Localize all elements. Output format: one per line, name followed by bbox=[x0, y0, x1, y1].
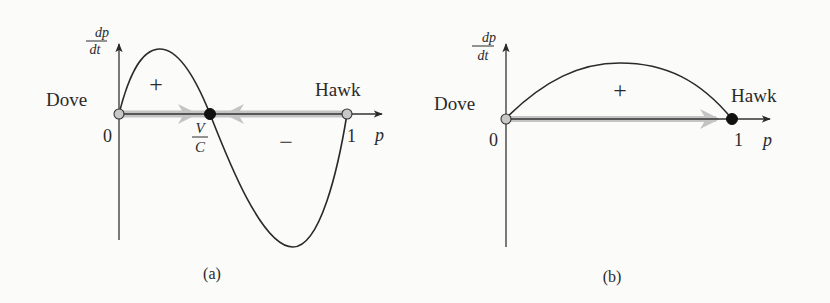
dove-label-a: Dove bbox=[46, 89, 87, 110]
y-axis-label-b: dp dt bbox=[472, 30, 496, 63]
v-over-c-label: V C bbox=[192, 120, 208, 155]
svg-text:dt: dt bbox=[478, 48, 490, 63]
panel-b: dp dt p 0 1 Dove Hawk + (b) bbox=[434, 30, 777, 286]
svg-text:dt: dt bbox=[90, 42, 102, 57]
caption-a: (a) bbox=[203, 265, 221, 283]
positive-region-sign-a: + bbox=[149, 71, 163, 97]
x-axis-label-a: p bbox=[373, 125, 384, 145]
y-axis-label-a: dp dt bbox=[86, 25, 109, 57]
negative-region-sign-a: − bbox=[279, 129, 293, 155]
hawk-label-b: Hawk bbox=[731, 85, 777, 106]
svg-text:dp: dp bbox=[482, 30, 496, 45]
one-label-a: 1 bbox=[347, 126, 356, 146]
hawk-label-a: Hawk bbox=[315, 79, 361, 100]
mixed-fixed-point-a bbox=[205, 109, 216, 120]
positive-region-sign-b: + bbox=[613, 77, 627, 103]
origin-label-a: 0 bbox=[103, 126, 112, 146]
hawk-fixed-point-a bbox=[342, 109, 352, 119]
svg-text:C: C bbox=[195, 139, 206, 155]
hawk-fixed-point-b bbox=[727, 114, 738, 125]
dove-fixed-point-a bbox=[114, 109, 124, 119]
caption-b: (b) bbox=[603, 268, 622, 286]
one-label-b: 1 bbox=[734, 130, 743, 150]
dove-label-b: Dove bbox=[434, 93, 475, 114]
svg-text:V: V bbox=[195, 120, 206, 136]
panel-a: dp dt p 0 1 V C Dove Hawk + − (a) bbox=[46, 25, 384, 283]
dove-fixed-point-b bbox=[501, 114, 511, 124]
origin-label-b: 0 bbox=[489, 130, 498, 150]
hawk-dove-phase-diagram-figure: dp dt p 0 1 V C Dove Hawk + − (a) bbox=[0, 0, 830, 303]
svg-text:dp: dp bbox=[95, 25, 109, 40]
x-axis-label-b: p bbox=[761, 130, 772, 150]
